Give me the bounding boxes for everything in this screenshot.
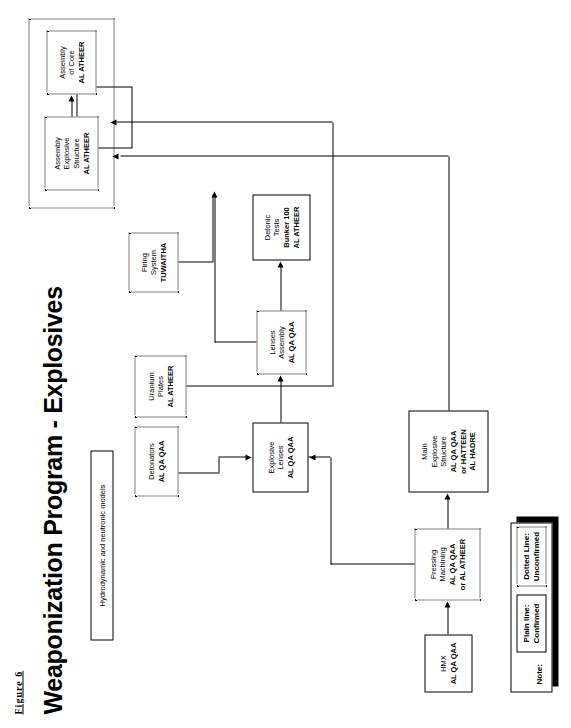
node-text-line: Explosive bbox=[61, 137, 71, 169]
node-text-line: Detonic bbox=[262, 214, 272, 239]
arrowhead-pressing-to-lenses bbox=[309, 455, 315, 461]
node-text-line: Main bbox=[419, 443, 429, 459]
connector-pressing-to-main bbox=[447, 498, 448, 528]
arrowhead-uranium-to-assembly bbox=[110, 120, 116, 126]
connector-detonators-down bbox=[178, 472, 218, 473]
legend-text-line: Plain line: bbox=[521, 604, 531, 642]
arrowhead-lensasm-to-detonic bbox=[277, 261, 283, 267]
node-text-line: AL ATHEER bbox=[81, 132, 91, 174]
node-text-line: or HATTEEN bbox=[458, 429, 468, 473]
node-text-line: HMX bbox=[438, 655, 448, 672]
legend-text-line: Unconfirmed bbox=[531, 531, 541, 580]
node-text-line: Detonators bbox=[146, 443, 156, 480]
node-text-line: AL ATHEER bbox=[165, 365, 175, 407]
rotated-diagram-canvas: Figure 6 Weaponization Program - Explosi… bbox=[0, 0, 571, 728]
page-title: Weaponization Program - Explosives bbox=[38, 286, 67, 714]
node-text-line: Assembly bbox=[57, 46, 67, 79]
node-text-line: Tests bbox=[271, 218, 281, 236]
node-hydrodynamic-models: Hydrodynamic and neutronic models bbox=[90, 450, 113, 640]
connector-uranium-up-to-assembly bbox=[116, 121, 332, 122]
legend-text-line: Confirmed bbox=[531, 603, 541, 643]
node-text-line: Explosive bbox=[266, 441, 276, 473]
node-text-line: AL ATHEER bbox=[76, 41, 86, 83]
node-text-line: Lenses bbox=[275, 445, 285, 469]
connector-firing-to-asmexp bbox=[212, 194, 213, 262]
node-text-line: Assembly bbox=[276, 326, 286, 359]
note-title: Note: bbox=[534, 664, 543, 684]
connector-lensasm-to-asmexp bbox=[214, 196, 215, 342]
connector-lensasm-to-detonic bbox=[280, 266, 281, 310]
node-assembly-explosive-structure: AssemblyExplosiveStructureAL ATHEER bbox=[44, 116, 98, 190]
connector-lenses-bottom-stub bbox=[308, 456, 330, 457]
legend-item-confirmed: Plain line:Confirmed bbox=[516, 594, 546, 652]
node-main-explosive-structure: MainExplosiveStructureAL QA QAAor HATTEE… bbox=[408, 410, 488, 492]
connector-pressing-to-lenses bbox=[330, 457, 331, 564]
node-text-line: Hydrodynamic and neutronic models bbox=[97, 484, 107, 606]
figure-label: Figure 6 bbox=[12, 670, 23, 714]
node-text-line: AL QA QAA bbox=[156, 440, 166, 482]
node-text-line: AL QA QAA bbox=[447, 543, 457, 585]
node-lenses-assembly: LensesAssemblyAL QA QAA bbox=[256, 310, 306, 374]
arrowhead-pressing-to-main bbox=[444, 493, 450, 499]
connector-lensasm-up bbox=[214, 341, 256, 342]
node-text-line: Firing bbox=[139, 253, 149, 272]
node-text-line: AL QA QAA bbox=[448, 642, 458, 684]
connector-lenses-to-assembly bbox=[280, 380, 281, 422]
connector-asmexp-to-asmcore bbox=[71, 100, 72, 116]
node-text-line: or AL ATHEER bbox=[457, 538, 467, 589]
node-text-line: Machining bbox=[437, 547, 447, 581]
node-detonic-tests: DetonicTestsBunker 100AL ATHEER bbox=[252, 194, 310, 260]
node-text-line: AL QA QAA bbox=[286, 321, 296, 363]
node-text-line: Uranium bbox=[146, 372, 156, 400]
node-text-line: AL ATHEER bbox=[291, 206, 301, 248]
connector-detonators-to-lenses-v bbox=[218, 456, 246, 457]
connector-pressing-up bbox=[330, 563, 414, 564]
node-text-line: AL QA QAA bbox=[285, 436, 295, 478]
node-text-line: Structure bbox=[438, 436, 448, 466]
arrowhead-lensasm-to-asmexp bbox=[211, 191, 217, 197]
node-text-line: TUWAITHA bbox=[158, 242, 168, 282]
connector-uranium-down bbox=[186, 385, 332, 386]
node-text-line: Plates bbox=[155, 376, 165, 397]
node-text-line: Bunker 100 bbox=[281, 207, 291, 247]
figure-page: Figure 6 Weaponization Program - Explosi… bbox=[0, 0, 571, 728]
arrowhead-detonators-to-lenses bbox=[245, 455, 251, 461]
connector-firing-down bbox=[178, 261, 212, 262]
node-hmx: HMXAL QA QAA bbox=[424, 634, 472, 692]
arrowhead-lenses-to-assembly bbox=[277, 375, 283, 381]
node-uranium-plates: UraniumPlatesAL ATHEER bbox=[134, 355, 186, 417]
node-explosive-lenses: ExplosiveLensesAL QA QAA bbox=[252, 422, 308, 492]
legend-item-unconfirmed: Dotted Line:Unconfirmed bbox=[516, 526, 546, 586]
node-detonators: DetonatorsAL QA QAA bbox=[134, 426, 178, 496]
node-text-line: System bbox=[148, 250, 158, 275]
node-text-line: Explosive bbox=[429, 435, 439, 467]
legend-text-line: Dotted Line: bbox=[521, 533, 531, 580]
connector-detonators-to-lenses bbox=[218, 457, 219, 473]
node-text-line: Structure bbox=[71, 138, 81, 168]
node-text-line: AL HADRE bbox=[467, 432, 477, 471]
node-text-line: Pressing bbox=[428, 549, 438, 578]
arrowhead-hmx-to-pressing bbox=[444, 601, 450, 607]
connector-main-right bbox=[448, 156, 449, 410]
node-text-line: Assembly bbox=[52, 137, 62, 170]
node-text-line: AL QA QAA bbox=[448, 430, 458, 472]
node-text-line: Lenses bbox=[267, 330, 277, 354]
node-pressing-machining: PressingMachiningAL QA QAAor AL ATHEER bbox=[414, 528, 480, 600]
connector-main-up bbox=[120, 155, 448, 156]
arrowhead-asmexp-to-asmcore bbox=[68, 95, 74, 101]
connector-uranium-right bbox=[332, 122, 333, 386]
node-firing-system: FiringSystemTUWAITHA bbox=[128, 232, 178, 292]
connector-hmx-to-pressing bbox=[447, 606, 448, 634]
node-text-line: of Core bbox=[66, 50, 76, 75]
arrowhead-main-to-assembly bbox=[112, 154, 118, 160]
node-assembly-of-core: Assemblyof CoreAL ATHEER bbox=[46, 30, 96, 94]
